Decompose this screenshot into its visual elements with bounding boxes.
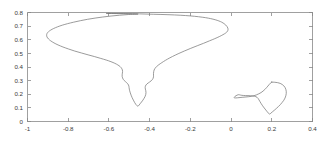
x-tick-label: -0.2 [185, 125, 196, 132]
plot-canvas: 00.10.20.30.40.50.60.70.8 -1-0.8-0.6-0.4… [0, 0, 329, 141]
y-tick-label: 0.3 [14, 77, 23, 84]
y-tick-label: 0.5 [14, 50, 23, 57]
y-tick-label: 0.4 [14, 63, 23, 70]
y-tick-label: 0.6 [14, 36, 23, 43]
figure-plot: 00.10.20.30.40.50.60.70.8 -1-0.8-0.6-0.4… [0, 0, 329, 141]
data-curve-large-contour [47, 13, 228, 106]
y-tick-label: 0 [20, 118, 24, 125]
y-tick-label: 0.1 [14, 104, 23, 111]
x-tick-label: -0.8 [63, 125, 74, 132]
y-tick-label: 0.8 [14, 9, 23, 16]
x-tick-label: 0.4 [308, 125, 317, 132]
x-tick-label: -0.6 [104, 125, 115, 132]
x-tick-label: -0.4 [144, 125, 155, 132]
x-axis-ticks [28, 13, 313, 122]
y-axis-ticks [28, 13, 313, 122]
y-axis-tick-labels: 00.10.20.30.40.50.60.70.8 [14, 9, 23, 125]
y-tick-label: 0.2 [14, 90, 23, 97]
x-tick-label: 0.2 [267, 125, 276, 132]
data-curves [47, 13, 287, 114]
axes-frame [28, 13, 313, 122]
x-axis-tick-labels: -1-0.8-0.6-0.4-0.200.20.4 [25, 125, 318, 132]
x-tick-label: -1 [25, 125, 31, 132]
y-tick-label: 0.7 [14, 22, 23, 29]
data-curve-small-contour [234, 82, 286, 114]
x-tick-label: 0 [229, 125, 233, 132]
